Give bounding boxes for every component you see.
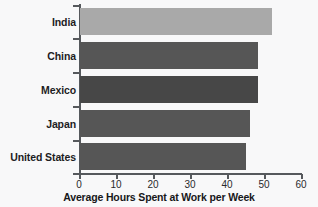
x-axis-tick-label: 10 [103, 179, 129, 190]
x-axis-tick-label: 30 [177, 179, 203, 190]
y-axis-label-united-states: United States [10, 151, 76, 163]
x-axis-tick-label: 20 [140, 179, 166, 190]
bar-india [80, 8, 272, 35]
plot-area: India China Mexico Japan United States 0… [0, 0, 318, 207]
y-axis-label-mexico: Mexico [41, 84, 76, 96]
y-axis-tick [73, 38, 79, 40]
bar-japan [80, 110, 250, 137]
bar-mexico [80, 76, 258, 103]
y-axis-label-china: China [47, 50, 76, 62]
y-axis-tick [73, 72, 79, 74]
x-axis-tick-label: 0 [66, 179, 92, 190]
y-axis-tick [73, 140, 79, 142]
x-axis-tick-label: 50 [251, 179, 277, 190]
y-axis-tick [73, 5, 79, 7]
x-axis-tick-label: 40 [214, 179, 240, 190]
bar-chart: India China Mexico Japan United States 0… [0, 0, 318, 207]
y-axis-label-india: India [52, 16, 76, 28]
bar-china [80, 42, 258, 69]
y-axis-label-japan: Japan [46, 118, 76, 130]
bar-united-states [80, 143, 246, 170]
x-axis-tick-label: 60 [288, 179, 314, 190]
y-axis-tick [73, 106, 79, 108]
x-axis-title: Average Hours Spent at Work per Week [0, 191, 318, 203]
